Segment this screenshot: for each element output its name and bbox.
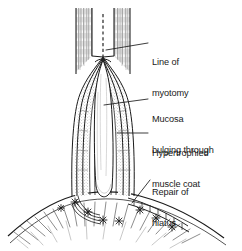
annotation-hypertrophied-muscle-coat-line1: Hypertrophied (152, 148, 208, 158)
medical-illustration-figure: Line of myotomy Mucosa bulging through H… (0, 0, 242, 251)
annotation-repair-of-hiatus-line2: hiatus (152, 218, 188, 228)
annotation-repair-of-hiatus: Repair of hiatus (152, 166, 188, 249)
annotation-mucosa-bulging-through-line1: Mucosa (152, 114, 214, 124)
annotation-line-of-myotomy-line1: Line of (152, 57, 189, 67)
annotation-repair-of-hiatus-line1: Repair of (152, 187, 188, 197)
